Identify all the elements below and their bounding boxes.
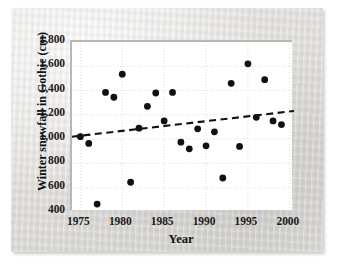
data-point [211,128,218,135]
data-point [194,125,201,132]
x-axis-title: Year [70,232,292,247]
x-axis-ticks: 197519801985199019952000 [0,216,338,232]
y-tick-label: 1,400 [19,83,65,95]
x-tick-label: 1990 [180,216,228,228]
x-tick-label: 1980 [96,216,144,228]
x-tick-label: 1995 [222,216,270,228]
figure-scatter-snowfall: Winter snowfall in Gothic (cm) 400600800… [0,0,338,266]
y-tick-label: 1,800 [19,34,65,46]
data-point [186,145,193,152]
data-point [169,89,176,96]
data-point [94,201,101,208]
data-point [119,71,126,78]
y-tick-label: 1,600 [19,58,65,70]
data-point [203,142,210,149]
data-point [85,140,92,147]
data-point [228,80,235,87]
data-point [270,118,277,125]
plot-canvas [72,42,294,212]
data-point [136,125,143,132]
data-point [102,89,109,96]
data-point [219,175,226,182]
data-point [77,133,84,140]
gridlines [72,42,294,212]
y-tick-label: 1,000 [19,131,65,143]
data-points [77,60,285,207]
plot-area [70,40,292,210]
data-point [110,94,117,101]
y-tick-label: 1,200 [19,107,65,119]
data-point [278,121,285,128]
y-tick-label: 800 [19,155,65,167]
y-tick-label: 400 [19,204,65,216]
y-tick-label: 600 [19,180,65,192]
data-point [161,118,168,125]
data-point [127,179,134,186]
x-tick-label: 1985 [138,216,186,228]
data-point [152,90,159,97]
x-tick-label: 1975 [54,216,102,228]
data-point [144,103,151,110]
data-point [261,76,268,83]
data-point [178,139,185,146]
data-point [236,143,243,150]
data-point [253,114,260,121]
data-point [245,60,252,67]
x-tick-label: 2000 [264,216,312,228]
